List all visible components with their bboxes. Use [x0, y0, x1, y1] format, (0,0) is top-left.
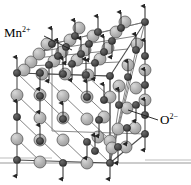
cation-sphere — [13, 156, 20, 163]
cation-label: Mn2+ — [4, 26, 31, 39]
cation-sphere — [95, 116, 102, 123]
crystal-structure-figure: Mn2+ O2− — [0, 0, 191, 185]
cation-sphere — [141, 52, 148, 59]
cation-sphere — [77, 50, 84, 57]
cation-sphere — [141, 130, 148, 137]
cation-sphere — [117, 24, 124, 31]
cation-sphere — [106, 72, 113, 79]
anion-label: O2− — [160, 113, 178, 126]
cation-sphere — [36, 137, 43, 144]
anion-sphere — [34, 112, 46, 124]
cation-sphere — [45, 61, 52, 68]
cation-label-text: Mn — [4, 25, 22, 40]
cation-sphere — [13, 69, 20, 76]
cation-sphere — [83, 138, 90, 145]
cation-sphere — [141, 18, 148, 25]
cation-sphere — [13, 113, 20, 120]
anion-sphere — [11, 89, 23, 101]
cation-sphere — [71, 32, 78, 39]
cation-sphere — [91, 59, 98, 66]
cation-sphere — [36, 69, 43, 76]
cation-sphere — [108, 37, 115, 44]
anion-sphere — [33, 48, 45, 60]
cation-sphere — [82, 71, 89, 78]
cation-sphere — [59, 70, 66, 77]
cation-sphere — [83, 93, 90, 100]
anion-sphere — [130, 82, 142, 94]
cation-sphere — [100, 96, 107, 103]
front-diag-b — [17, 95, 88, 163]
anion-label-text: O — [160, 112, 169, 127]
cation-sphere — [114, 143, 121, 150]
cation-sphere — [141, 81, 148, 88]
cation-sphere — [54, 52, 61, 59]
cation-label-charge: 2+ — [22, 25, 31, 34]
anion-sphere — [81, 113, 93, 125]
cation-sphere — [59, 115, 66, 122]
cation-sphere — [91, 147, 98, 154]
cation-sphere — [36, 92, 43, 99]
anion-sphere — [112, 123, 124, 135]
cation-sphere — [59, 159, 66, 166]
cation-sphere — [106, 159, 113, 166]
cation-sphere — [68, 60, 75, 67]
anion-sphere — [34, 156, 46, 168]
anion-sphere — [11, 133, 23, 145]
cation-sphere — [100, 48, 107, 55]
anion-sphere — [81, 157, 93, 169]
cation-sphere — [94, 28, 101, 35]
anion-sphere — [92, 131, 104, 143]
cation-sphere — [132, 46, 139, 53]
anion-label-charge: 2− — [169, 112, 178, 121]
cation-sphere — [124, 73, 131, 80]
cation-sphere — [115, 101, 122, 108]
anion-sphere — [57, 90, 69, 102]
anion-sphere — [121, 102, 133, 114]
cation-sphere — [85, 40, 92, 47]
anion-sphere — [57, 134, 69, 146]
o-leader-line — [128, 110, 158, 120]
cation-sphere — [123, 124, 130, 131]
cation-sphere — [132, 101, 139, 108]
